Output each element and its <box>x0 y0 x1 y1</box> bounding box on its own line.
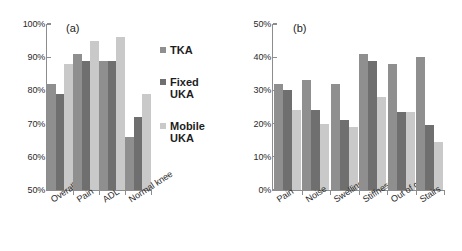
legend-label-mobile-uka: Mobile UKA <box>170 120 205 144</box>
bar-b-4-0 <box>388 64 397 190</box>
bar-b-5-0 <box>416 57 425 190</box>
legend-swatch-icon-mobile-uka <box>160 123 166 129</box>
x-axis-tick-mark <box>99 190 100 195</box>
y-axis-tick-label: 100% <box>23 19 47 29</box>
plot-area-a: 50%60%70%80%90%100%OverallPainADLNormal … <box>46 24 151 191</box>
plot-area-b: 0%10%20%30%40%50%PainNoiseSwellingStiffn… <box>272 24 444 191</box>
x-axis-tick-mark <box>302 190 303 195</box>
bar-b-0-1 <box>283 90 292 190</box>
y-axis-tick-label: 40% <box>254 52 273 62</box>
bar-group <box>125 24 151 190</box>
bar-b-0-2 <box>292 110 301 190</box>
bar-group <box>302 24 331 190</box>
x-axis-tick-mark <box>444 190 445 195</box>
bar-group <box>387 24 416 190</box>
y-axis-tick-a-1: 60% <box>28 152 47 162</box>
x-axis-tick-mark <box>73 190 74 195</box>
bar-a-3-0 <box>125 137 134 190</box>
bar-a-1-2 <box>90 41 99 190</box>
y-axis-tick-label: 0% <box>258 185 273 195</box>
y-axis-tick-b-2: 20% <box>254 119 273 129</box>
y-axis-tick-label: 20% <box>254 119 273 129</box>
y-axis-tick-label: 90% <box>28 52 47 62</box>
bar-a-0-0 <box>47 84 56 190</box>
bar-b-0-0 <box>274 84 283 190</box>
legend-swatch-icon-tka <box>160 47 166 53</box>
x-axis-tick-mark <box>416 190 417 195</box>
bar-b-3-2 <box>377 97 386 190</box>
bar-group <box>416 24 445 190</box>
bar-a-2-1 <box>108 61 117 190</box>
x-axis-tick-mark <box>330 190 331 195</box>
bar-a-2-0 <box>99 61 108 190</box>
y-axis-tick-label: 50% <box>28 185 47 195</box>
x-axis-tick-mark <box>359 190 360 195</box>
y-axis-tick-a-3: 80% <box>28 85 47 95</box>
bar-a-0-2 <box>64 64 73 190</box>
y-axis-tick-a-2: 70% <box>28 119 47 129</box>
y-axis-tick-label: 50% <box>254 19 273 29</box>
legend: TKA Fixed UKA Mobile UKA <box>160 44 228 164</box>
y-axis-tick-b-1: 10% <box>254 152 273 162</box>
bar-a-1-1 <box>82 61 91 190</box>
legend-label-fixed-uka: Fixed UKA <box>170 76 199 100</box>
bar-b-2-0 <box>331 84 340 190</box>
y-axis-tick-label: 70% <box>28 119 47 129</box>
bar-group <box>47 24 73 190</box>
x-axis-tick-mark <box>125 190 126 195</box>
figure-container: (a) 50%60%70%80%90%100%OverallPainADLNor… <box>0 0 462 251</box>
bar-group <box>359 24 388 190</box>
chart-panel-a: (a) 50%60%70%80%90%100%OverallPainADLNor… <box>0 0 231 251</box>
bar-b-3-0 <box>359 54 368 190</box>
bar-group <box>73 24 99 190</box>
y-axis-tick-label: 60% <box>28 152 47 162</box>
bar-b-2-1 <box>340 120 349 190</box>
y-axis-tick-b-4: 40% <box>254 52 273 62</box>
bar-b-4-1 <box>397 112 406 190</box>
y-axis-tick-b-5: 50% <box>254 19 273 29</box>
bar-b-1-0 <box>302 80 311 190</box>
y-axis-tick-label: 80% <box>28 85 47 95</box>
bar-group <box>330 24 359 190</box>
bar-a-3-2 <box>142 94 151 190</box>
bar-b-1-1 <box>311 110 320 190</box>
y-axis-tick-b-3: 30% <box>254 85 273 95</box>
bar-a-3-1 <box>134 117 143 190</box>
legend-item-fixed-uka: Fixed UKA <box>160 76 228 100</box>
legend-item-mobile-uka: Mobile UKA <box>160 120 228 144</box>
bar-group <box>99 24 125 190</box>
y-axis-tick-label: 10% <box>254 152 273 162</box>
y-axis-tick-b-0: 0% <box>258 185 273 195</box>
y-axis-tick-a-4: 90% <box>28 52 47 62</box>
bar-b-4-2 <box>406 112 415 190</box>
bar-a-1-0 <box>73 54 82 190</box>
bar-b-5-2 <box>434 142 443 190</box>
bar-b-5-1 <box>425 125 434 190</box>
y-axis-tick-a-5: 100% <box>23 19 47 29</box>
x-axis-tick-mark <box>151 190 152 195</box>
chart-panel-b: (b) 0%10%20%30%40%50%PainNoiseSwellingSt… <box>231 0 462 251</box>
bar-a-0-1 <box>56 94 65 190</box>
bar-group <box>273 24 302 190</box>
y-axis-tick-label: 30% <box>254 85 273 95</box>
legend-swatch-icon-fixed-uka <box>160 79 166 85</box>
legend-label-tka: TKA <box>170 44 193 56</box>
bar-b-1-2 <box>320 124 329 190</box>
legend-item-tka: TKA <box>160 44 228 56</box>
bar-a-2-2 <box>116 37 125 190</box>
bar-b-3-1 <box>368 61 377 190</box>
y-axis-tick-a-0: 50% <box>28 185 47 195</box>
x-axis-tick-mark <box>387 190 388 195</box>
